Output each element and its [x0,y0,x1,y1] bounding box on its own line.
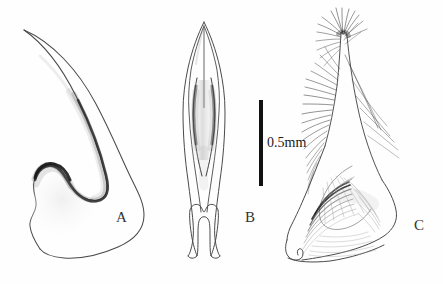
panel-b-basal-notch [190,204,219,256]
figure-plate: 0.5mm A B C [0,0,443,284]
panel-c-apical-smudge [338,32,349,36]
panel-c-dorsal-margin [287,146,325,240]
panel-c-basal-hook [286,240,303,260]
panel-b-left-prong-tip [188,256,197,258]
panel-b-right-shading-soft [211,92,213,148]
panel-b-right-prong-tip [211,256,220,258]
panel-c-apical-process-right [347,36,382,180]
scale-bar-label: 0.5mm [267,136,306,150]
panel-label-b: B [245,210,255,225]
panel-label-a: A [116,210,127,225]
panel-c-free-bristles [345,55,399,158]
panel-b-left-shading-soft [195,92,197,148]
panel-label-c: C [414,218,424,233]
panel-c-apical-process-left [325,33,341,146]
panel-c-body-tone [340,195,372,204]
scale-bar [259,100,263,186]
panel-c-apical-setae [316,8,367,66]
illustration-canvas [0,0,443,284]
panel-a-shading-gradient [70,92,105,199]
panel-b-lower-tone [203,150,204,186]
panel-c-dorsal-bristles [302,47,340,194]
panel-b-drawing [183,22,225,258]
